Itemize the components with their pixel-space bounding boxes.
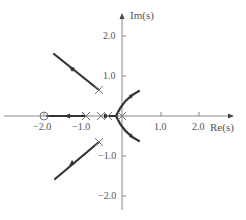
- root-locus-plot: [0, 0, 246, 220]
- y-tick-label: −2.0: [98, 190, 116, 201]
- branch-upper-left: [54, 54, 99, 90]
- x-tick-label: −1.0: [72, 121, 90, 132]
- pole-marker-icon: [95, 86, 103, 94]
- x-axis-label: Re(s): [210, 121, 234, 133]
- branch-lower-left: [55, 142, 99, 179]
- y-axis-label: Im(s): [130, 9, 154, 21]
- x-tick-label: −2.0: [33, 121, 51, 132]
- y-axis-arrow-icon: [120, 13, 125, 19]
- x-tick-label: 1.0: [154, 121, 167, 132]
- pole-marker-icon: [95, 138, 103, 146]
- y-tick-label: 2.0: [103, 30, 116, 41]
- x-tick-label: 2.0: [192, 121, 205, 132]
- x-axis-arrow-icon: [228, 114, 234, 119]
- arrow-icon: [64, 114, 70, 119]
- y-tick-label: −1.0: [98, 150, 116, 161]
- y-tick-label: 1.0: [103, 70, 116, 81]
